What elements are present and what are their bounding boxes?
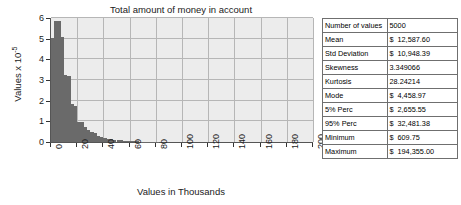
- histogram-panel: Total amount of money in account Values …: [0, 0, 320, 205]
- plot-area: [50, 18, 313, 143]
- stat-value: 28.24214: [387, 75, 458, 89]
- y-axis-title-text: Values x 10: [12, 53, 23, 102]
- x-axis-tick-label: 120: [211, 134, 221, 149]
- currency-symbol: $: [390, 48, 398, 59]
- x-axis-tick: [312, 143, 313, 147]
- y-axis-tick-label: 6: [39, 13, 44, 23]
- x-axis-tick-label: 180: [290, 134, 300, 149]
- stat-label: Minimum: [323, 131, 388, 145]
- table-row: Mean$12,587.60: [323, 33, 458, 47]
- stat-value: $194,355.00: [387, 145, 458, 159]
- stat-value: 3.349066: [387, 61, 458, 75]
- x-axis-tick: [155, 143, 156, 147]
- stat-value: $609.75: [387, 131, 458, 145]
- chart-title: Total amount of money in account: [50, 4, 312, 15]
- x-axis-tick: [181, 143, 182, 147]
- table-row: Mode$4,458.97: [323, 89, 458, 103]
- gridline-vertical: [313, 18, 314, 142]
- currency-symbol: $: [390, 146, 398, 157]
- x-axis-tick-label: 80: [159, 139, 169, 149]
- stat-label: 95% Perc: [323, 117, 388, 131]
- stat-value: $10,948.39: [387, 47, 458, 61]
- x-axis-tick-label: 40: [106, 139, 116, 149]
- y-axis: Values x 10-5 0123456: [0, 18, 50, 143]
- stat-label: Mode: [323, 89, 388, 103]
- y-axis-tick-label: 0: [39, 137, 44, 147]
- stat-label: Std Deviation: [323, 47, 388, 61]
- x-axis-tick: [233, 143, 234, 147]
- statistics-report: Total amount of money in account Values …: [0, 0, 461, 205]
- stat-value: $2,655.55: [387, 103, 458, 117]
- currency-symbol: $: [390, 90, 398, 101]
- stat-label: Skewness: [323, 61, 388, 75]
- histogram-bars: [51, 18, 313, 142]
- x-axis-tick: [260, 143, 261, 147]
- table-row: Std Deviation$10,948.39: [323, 47, 458, 61]
- table-row: 95% Perc$32,481.38: [323, 117, 458, 131]
- statistics-table: Number of values5000Mean$12,587.60Std De…: [322, 18, 458, 159]
- stat-value: $32,481.38: [387, 117, 458, 131]
- currency-symbol: $: [390, 132, 398, 143]
- currency-symbol: $: [390, 118, 398, 129]
- stat-label: 5% Perc: [323, 103, 388, 117]
- table-row: Skewness3.349066: [323, 61, 458, 75]
- y-axis-tick-label: 2: [39, 96, 44, 106]
- x-axis-tick: [102, 143, 103, 147]
- x-axis-tick-label: 0: [54, 144, 64, 149]
- table-row: Kurtosis28.24214: [323, 75, 458, 89]
- x-axis-tick-label: 20: [80, 139, 90, 149]
- x-axis-tick: [50, 143, 51, 147]
- y-axis-title: Values x 10-5: [11, 19, 23, 129]
- stat-value: 5000: [387, 19, 458, 33]
- stat-value: $4,458.97: [387, 89, 458, 103]
- table-row: Number of values5000: [323, 19, 458, 33]
- stat-label: Number of values: [323, 19, 388, 33]
- table-row: Maximum$194,355.00: [323, 145, 458, 159]
- x-axis-tick-label: 160: [264, 134, 274, 149]
- x-axis-tick-label: 140: [237, 134, 247, 149]
- x-axis-title: Values in Thousands: [50, 186, 312, 197]
- currency-symbol: $: [390, 34, 398, 45]
- y-axis-tick-label: 5: [39, 34, 44, 44]
- x-axis-tick: [76, 143, 77, 147]
- x-axis-tick-label: 100: [185, 134, 195, 149]
- y-axis-title-exponent: -5: [11, 46, 18, 52]
- statistics-table-body: Number of values5000Mean$12,587.60Std De…: [323, 19, 458, 159]
- table-row: Minimum$609.75: [323, 131, 458, 145]
- x-axis-tick: [286, 143, 287, 147]
- y-axis-tick-label: 1: [39, 116, 44, 126]
- table-row: 5% Perc$2,655.55: [323, 103, 458, 117]
- stat-label: Kurtosis: [323, 75, 388, 89]
- x-axis-tick: [129, 143, 130, 147]
- x-axis-tick-label: 60: [133, 139, 143, 149]
- y-axis-tick-label: 3: [39, 75, 44, 85]
- currency-symbol: $: [390, 104, 398, 115]
- stat-label: Mean: [323, 33, 388, 47]
- stat-label: Maximum: [323, 145, 388, 159]
- x-axis: 020406080100120140160180200: [50, 143, 313, 183]
- x-axis-tick: [207, 143, 208, 147]
- stat-value: $12,587.60: [387, 33, 458, 47]
- y-axis-tick-label: 4: [39, 54, 44, 64]
